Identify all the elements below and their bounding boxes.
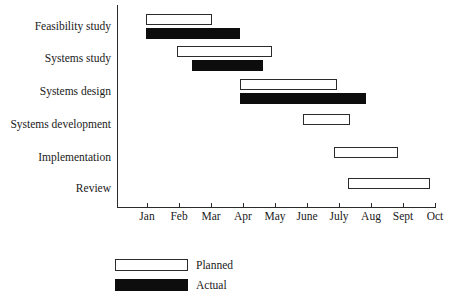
y-axis-line xyxy=(117,5,118,208)
x-axis-label-oct: Oct xyxy=(427,209,444,223)
gantt-bar-planned-systems-design xyxy=(240,79,337,90)
x-axis-tick-sept xyxy=(403,203,404,208)
x-axis-label-july: July xyxy=(329,209,348,223)
x-axis-label-jan: Jan xyxy=(139,209,154,223)
legend-swatch-actual xyxy=(115,279,188,291)
x-axis-label-apr: Apr xyxy=(234,209,252,223)
x-axis-label-aug: Aug xyxy=(361,209,381,223)
x-axis-label-mar: Mar xyxy=(201,209,220,223)
x-axis-label-sept: Sept xyxy=(393,209,413,223)
task-label-implementation: Implementation xyxy=(38,151,111,164)
legend-swatch-planned xyxy=(115,259,188,271)
gantt-bar-planned-systems-development xyxy=(303,114,350,125)
gantt-bar-actual-systems-study xyxy=(192,60,263,71)
task-label-systems-development: Systems development xyxy=(10,118,111,131)
gantt-bar-actual-systems-design xyxy=(240,93,366,104)
x-axis-label-feb: Feb xyxy=(170,209,187,223)
task-label-feasibility-study: Feasibility study xyxy=(35,20,111,33)
x-axis-tick-july xyxy=(339,203,340,208)
gantt-bar-planned-feasibility-study xyxy=(146,14,212,25)
x-axis-tick-jan xyxy=(147,203,148,208)
task-label-review: Review xyxy=(76,182,111,195)
x-axis-line xyxy=(117,207,435,208)
gantt-bar-planned-implementation xyxy=(334,147,398,158)
x-axis-tick-aug xyxy=(371,203,372,208)
task-label-systems-study: Systems study xyxy=(45,52,111,65)
x-axis-tick-mar xyxy=(211,203,212,208)
x-axis-label-june: June xyxy=(296,209,317,223)
x-axis-tick-oct xyxy=(435,203,436,208)
legend-label-planned: Planned xyxy=(196,259,233,272)
x-axis-tick-may xyxy=(275,203,276,208)
gantt-bar-actual-feasibility-study xyxy=(146,28,240,39)
gantt-chart: JanFebMarAprMayJuneJulyAugSeptOct Feasib… xyxy=(0,0,449,303)
x-axis-tick-apr xyxy=(243,203,244,208)
legend-label-actual: Actual xyxy=(196,279,227,292)
x-axis-label-may: May xyxy=(264,209,285,223)
x-axis-tick-feb xyxy=(179,203,180,208)
gantt-bar-planned-review xyxy=(348,178,430,189)
x-axis-tick-june xyxy=(307,203,308,208)
task-label-systems-design: Systems design xyxy=(40,85,111,98)
gantt-bar-planned-systems-study xyxy=(177,46,272,57)
